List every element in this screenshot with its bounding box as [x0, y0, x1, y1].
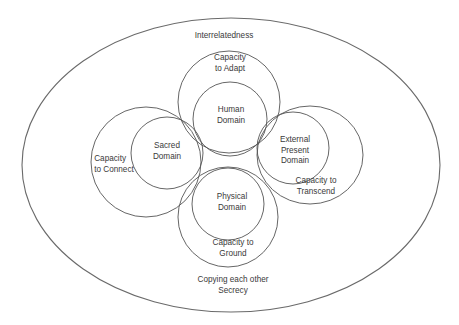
capacity-to-adapt-label: Capacity to Adapt	[214, 53, 246, 74]
sacred-domain-label: Sacred Domain	[153, 141, 181, 162]
human-domain-line2: Domain	[217, 116, 245, 127]
copying-each-other-text: Copying each other	[197, 275, 268, 286]
human-domain-label: Human Domain	[217, 105, 245, 126]
capacity-to-connect-line1: Capacity	[94, 154, 134, 165]
external-present-domain-line1: External	[280, 135, 310, 146]
capacity-to-connect-line2: to Connect	[94, 165, 134, 176]
capacity-to-adapt-line1: Capacity	[214, 53, 246, 64]
secrecy-text: Secrecy	[197, 286, 268, 297]
external-present-domain-line3: Domain	[280, 156, 310, 167]
physical-domain-label: Physical Domain	[217, 192, 248, 213]
external-present-domain-line2: Present	[280, 146, 310, 157]
human-domain-line1: Human	[217, 105, 245, 116]
sacred-domain-line2: Domain	[153, 152, 181, 163]
capacity-to-adapt-line2: to Adapt	[214, 64, 246, 75]
external-present-domain-label: External Present Domain	[280, 135, 310, 167]
physical-domain-line2: Domain	[217, 203, 248, 214]
capacity-to-ground-label: Capacity to Ground	[213, 238, 254, 259]
capacity-to-ground-line1: Capacity to	[213, 238, 254, 249]
physical-domain-line1: Physical	[217, 192, 248, 203]
interrelatedness-text: Interrelatedness	[195, 31, 254, 40]
capacity-to-connect-label: Capacity to Connect	[94, 154, 134, 175]
capacity-to-transcend-line1: Capacity to	[296, 176, 337, 187]
outer-bottom-label: Copying each other Secrecy	[197, 275, 268, 296]
interrelatedness-label: Interrelatedness	[195, 31, 254, 42]
capacity-to-transcend-line2: Transcend	[296, 187, 337, 198]
sacred-domain-line1: Sacred	[153, 141, 181, 152]
capacity-to-transcend-label: Capacity to Transcend	[296, 176, 337, 197]
capacity-to-ground-line2: Ground	[213, 249, 254, 260]
